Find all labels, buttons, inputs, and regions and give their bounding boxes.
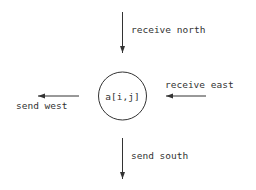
node-label: a[i,j] xyxy=(105,91,139,102)
receive-east-label: receive east xyxy=(165,79,234,90)
send-west-label: send west xyxy=(16,100,67,111)
communication-diagram: receive north a[i,j] receive east send w… xyxy=(0,0,256,190)
send-south-label: send south xyxy=(131,150,188,161)
receive-north-label: receive north xyxy=(131,24,205,35)
